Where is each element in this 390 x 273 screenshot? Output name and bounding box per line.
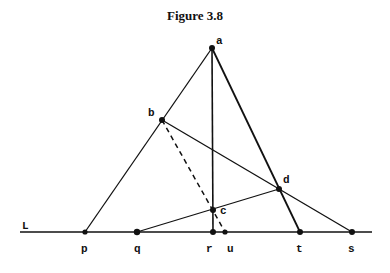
point-t [297, 229, 303, 235]
label-b: b [148, 107, 155, 119]
label-c: c [220, 205, 227, 217]
segment-a-r [212, 48, 213, 232]
point-r [210, 229, 216, 235]
label-t: t [296, 243, 303, 255]
point-a [209, 45, 215, 51]
label-L: L [22, 220, 29, 232]
point-u [222, 229, 227, 234]
label-d: d [283, 174, 290, 186]
point-q [134, 229, 140, 235]
point-s [349, 229, 355, 235]
label-q: q [134, 243, 141, 255]
label-r: r [206, 243, 213, 255]
point-d [276, 186, 282, 192]
point-c [210, 207, 216, 213]
geometry-diagram: L a b c d p q r u t s [0, 0, 390, 273]
label-p: p [81, 243, 88, 255]
point-p [82, 229, 87, 234]
label-s: s [348, 243, 355, 255]
segment-a-p [85, 48, 212, 232]
label-a: a [216, 35, 223, 47]
segment-q-d [137, 189, 279, 232]
label-u: u [227, 243, 234, 255]
point-b [159, 117, 165, 123]
